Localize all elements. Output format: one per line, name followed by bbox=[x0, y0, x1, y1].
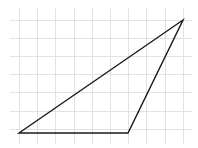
triangle bbox=[19, 20, 183, 133]
grid-triangle-diagram bbox=[0, 0, 198, 148]
